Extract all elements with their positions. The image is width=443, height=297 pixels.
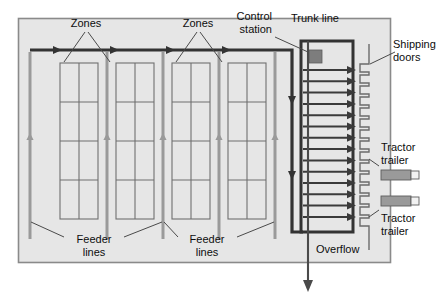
label-tractor-trailer-bottom-line2: trailer [381,225,409,237]
label-zones-left: Zones [71,17,102,29]
label-tractor-trailer-bottom-line1: Tractor [381,212,416,224]
label-feeder-lines-right-line1: Feeder [190,233,225,245]
diagram-canvas: Zones Zones Control station Trunk line S… [0,0,443,297]
tractor-trailer-bottom [381,196,419,206]
label-feeder-lines-left-line1: Feeder [77,233,112,245]
label-control-station-line1: Control [237,10,272,22]
label-overflow: Overflow [316,243,359,255]
tractor-trailer-top [381,170,419,180]
rack-3 [172,63,210,219]
label-tractor-trailer-top-line1: Tractor [381,141,416,153]
control-station-marker[interactable] [309,50,322,63]
label-shipping-doors-line1: Shipping [393,38,436,50]
label-trunk-line: Trunk line [291,12,339,24]
label-feeder-lines-right-line2: lines [196,246,219,258]
label-shipping-doors-line2: doors [393,51,421,63]
label-tractor-trailer-top-line2: trailer [381,154,409,166]
label-zones-right: Zones [183,17,214,29]
rack-4 [228,63,266,219]
rack-1 [60,63,98,219]
warehouse-layout-diagram: Zones Zones Control station Trunk line S… [0,0,443,297]
label-control-station-line2: station [240,23,272,35]
label-feeder-lines-left-line2: lines [83,246,106,258]
rack-2 [116,63,154,219]
